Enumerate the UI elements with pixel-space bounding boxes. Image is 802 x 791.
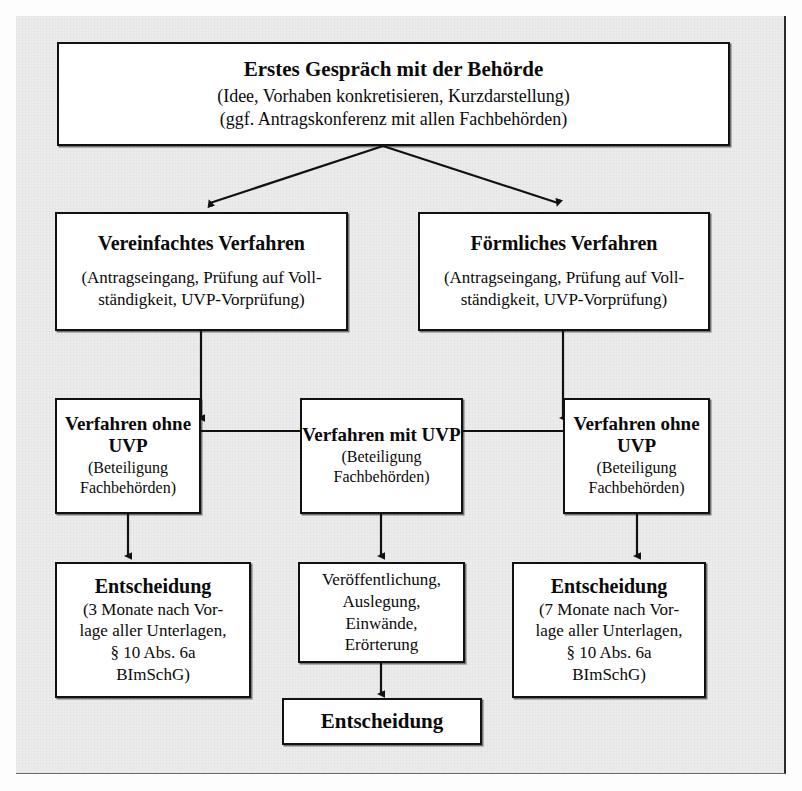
entscheidung-7-monate-line4: BImSchG) bbox=[536, 664, 683, 686]
entscheidung-7-monate-line3: § 10 Abs. 6a bbox=[536, 642, 683, 664]
entscheidung-7-monate-line2: lage aller Unterlagen, bbox=[536, 620, 683, 642]
verfahren-ohne-uvp-links-line1: (Beteiligung bbox=[80, 458, 176, 478]
verfahren-ohne-uvp-links-title1: Verfahren bbox=[65, 413, 147, 434]
veroeffentlichung-line1: Veröffentlichung, bbox=[322, 569, 441, 591]
verfahren-ohne-uvp-links-detail: (Beteiligung Fachbehörden) bbox=[80, 458, 176, 499]
entscheidung-7-monate-title: Entscheidung bbox=[551, 575, 668, 598]
connector-top-to-simplified bbox=[210, 146, 383, 203]
node-entscheidung-7-monate[interactable]: Entscheidung (7 Monate nach Vor- lage al… bbox=[512, 562, 706, 698]
entscheidung-3-monate-line1: (3 Monate nach Vor- bbox=[80, 599, 227, 621]
connector-top-to-formal bbox=[383, 146, 558, 203]
foermliches-verfahren-detail: (Antragseingang, Prüfung auf Voll- ständ… bbox=[444, 267, 684, 311]
vereinfachtes-verfahren-line1: (Antragseingang, Prüfung auf Voll- bbox=[81, 267, 321, 289]
verfahren-mit-uvp-title1: Verfahren bbox=[302, 424, 384, 445]
node-entscheidung-final[interactable]: Entscheidung bbox=[282, 698, 482, 745]
verfahren-ohne-uvp-rechts-title: Verfahren ohne UVP bbox=[565, 413, 708, 457]
verfahren-ohne-uvp-rechts-detail: (Beteiligung Fachbehörden) bbox=[589, 458, 685, 499]
veroeffentlichung-line2: Auslegung, bbox=[322, 591, 441, 613]
node-verfahren-ohne-uvp-rechts[interactable]: Verfahren ohne UVP (Beteiligung Fachbehö… bbox=[563, 398, 710, 514]
verfahren-ohne-uvp-rechts-title1: Verfahren bbox=[573, 413, 655, 434]
verfahren-mit-uvp-line2: Fachbehörden) bbox=[334, 467, 430, 487]
node-verfahren-mit-uvp[interactable]: Verfahren mit UVP (Beteiligung Fachbehör… bbox=[300, 398, 463, 514]
erstes-gespraech-detail: (Idee, Vorhaben konkretisieren, Kurzdars… bbox=[217, 85, 570, 131]
node-veroeffentlichung[interactable]: Veröffentlichung, Auslegung, Einwände, E… bbox=[298, 562, 465, 663]
node-vereinfachtes-verfahren[interactable]: Vereinfachtes Verfahren (Antragseingang,… bbox=[55, 212, 348, 331]
veroeffentlichung-detail: Veröffentlichung, Auslegung, Einwände, E… bbox=[322, 569, 441, 656]
node-foermliches-verfahren[interactable]: Förmliches Verfahren (Antragseingang, Pr… bbox=[418, 212, 710, 331]
erstes-gespraech-line2: (ggf. Antragskonferenz mit allen Fachbeh… bbox=[217, 108, 570, 131]
entscheidung-3-monate-title: Entscheidung bbox=[95, 575, 212, 598]
verfahren-ohne-uvp-links-line2: Fachbehörden) bbox=[80, 478, 176, 498]
verfahren-ohne-uvp-rechts-line1: (Beteiligung bbox=[589, 458, 685, 478]
verfahren-ohne-uvp-rechts-line2: Fachbehörden) bbox=[589, 478, 685, 498]
verfahren-mit-uvp-detail: (Beteiligung Fachbehörden) bbox=[334, 447, 430, 488]
node-entscheidung-3-monate[interactable]: Entscheidung (3 Monate nach Vor- lage al… bbox=[55, 562, 251, 698]
entscheidung-3-monate-detail: (3 Monate nach Vor- lage aller Unterlage… bbox=[80, 599, 227, 686]
entscheidung-3-monate-line3: § 10 Abs. 6a bbox=[80, 642, 227, 664]
foermliches-verfahren-line2: ständigkeit, UVP-Vorprüfung) bbox=[444, 289, 684, 311]
entscheidung-3-monate-line2: lage aller Unterlagen, bbox=[80, 620, 227, 642]
foermliches-verfahren-line1: (Antragseingang, Prüfung auf Voll- bbox=[444, 267, 684, 289]
flowchart-page: Erstes Gespräch mit der Behörde (Idee, V… bbox=[0, 0, 802, 791]
verfahren-ohne-uvp-links-title: Verfahren ohne UVP bbox=[57, 413, 199, 457]
vereinfachtes-verfahren-detail: (Antragseingang, Prüfung auf Voll- ständ… bbox=[81, 267, 321, 311]
entscheidung-final-title: Entscheidung bbox=[321, 709, 444, 733]
erstes-gespraech-title: Erstes Gespräch mit der Behörde bbox=[244, 57, 543, 81]
veroeffentlichung-line3: Einwände, bbox=[322, 613, 441, 635]
entscheidung-7-monate-detail: (7 Monate nach Vor- lage aller Unterlage… bbox=[536, 599, 683, 686]
verfahren-mit-uvp-line1: (Beteiligung bbox=[334, 447, 430, 467]
entscheidung-7-monate-line1: (7 Monate nach Vor- bbox=[536, 599, 683, 621]
node-verfahren-ohne-uvp-links[interactable]: Verfahren ohne UVP (Beteiligung Fachbehö… bbox=[55, 398, 201, 514]
veroeffentlichung-line4: Erörterung bbox=[322, 634, 441, 656]
vereinfachtes-verfahren-line2: ständigkeit, UVP-Vorprüfung) bbox=[81, 289, 321, 311]
verfahren-mit-uvp-title2: mit UVP bbox=[389, 424, 460, 445]
erstes-gespraech-line1: (Idee, Vorhaben konkretisieren, Kurzdars… bbox=[217, 85, 570, 108]
foermliches-verfahren-title: Förmliches Verfahren bbox=[471, 232, 658, 255]
entscheidung-3-monate-line4: BImSchG) bbox=[80, 664, 227, 686]
verfahren-mit-uvp-title: Verfahren mit UVP bbox=[302, 424, 460, 446]
vereinfachtes-verfahren-title: Vereinfachtes Verfahren bbox=[98, 232, 305, 255]
node-erstes-gespraech[interactable]: Erstes Gespräch mit der Behörde (Idee, V… bbox=[57, 42, 730, 146]
